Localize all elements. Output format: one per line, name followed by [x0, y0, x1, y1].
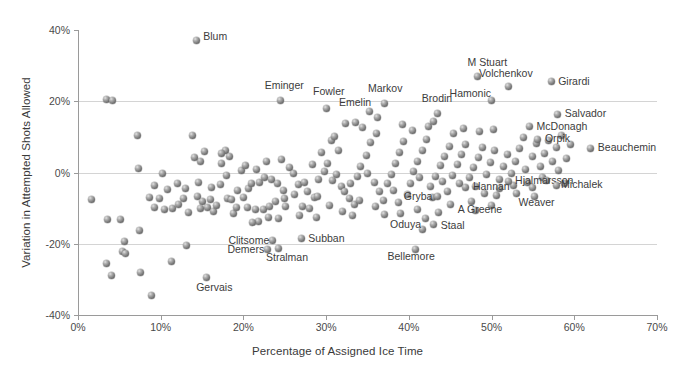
data-point: [210, 208, 217, 215]
data-point: [291, 191, 298, 198]
data-point: [407, 180, 414, 187]
data-point: [447, 201, 454, 208]
data-point-staal: [430, 221, 437, 228]
data-point-girardi: [548, 78, 555, 85]
point-label-staal: Staal: [441, 220, 465, 231]
data-point-gervais: [203, 274, 210, 281]
data-point: [422, 215, 429, 222]
data-point: [335, 147, 342, 154]
y-tick-label-1: 20%: [30, 96, 70, 106]
data-point: [437, 162, 444, 169]
point-label-weaver: Weaver: [519, 197, 555, 208]
x-tick-label-3: 30%: [306, 322, 346, 332]
y-tick-label-2: 0%: [30, 168, 70, 178]
data-point: [218, 160, 225, 167]
data-point: [446, 143, 453, 150]
data-point: [466, 174, 473, 181]
data-point: [223, 172, 230, 179]
data-point: [380, 197, 387, 204]
data-point: [504, 151, 511, 158]
data-point: [458, 151, 465, 158]
y-tick-3: [74, 244, 79, 245]
data-point: [529, 153, 536, 160]
data-point: [339, 208, 346, 215]
x-tick-6: [574, 315, 575, 320]
point-label-markov: Markov: [368, 83, 402, 94]
data-point: [372, 203, 379, 210]
point-label-emelin: Emelin: [339, 97, 371, 108]
data-point-orpik: [534, 136, 541, 143]
data-point: [390, 187, 397, 194]
data-point-eminger: [277, 97, 284, 104]
data-point: [233, 204, 240, 211]
data-point: [146, 194, 153, 201]
point-label-hannan: Hannan: [473, 181, 510, 192]
data-point: [180, 195, 187, 202]
data-point: [397, 210, 404, 217]
data-point-hannan: [462, 184, 469, 191]
data-point: [159, 170, 166, 177]
data-point: [349, 212, 356, 219]
point-label-michalek: Michalek: [561, 179, 602, 190]
data-point: [541, 150, 548, 157]
data-point: [439, 178, 446, 185]
y-tick-1: [74, 101, 79, 102]
data-point: [520, 134, 527, 141]
data-point: [321, 168, 328, 175]
data-point: [462, 141, 469, 148]
data-point: [103, 260, 110, 267]
data-point: [148, 292, 155, 299]
data-point: [326, 202, 333, 209]
data-point: [266, 203, 273, 210]
data-point: [306, 205, 313, 212]
data-point: [175, 201, 182, 208]
data-point: [248, 180, 255, 187]
x-tick-label-0: 0%: [58, 322, 98, 332]
data-point: [373, 130, 380, 137]
data-point: [563, 155, 570, 162]
data-point-volchenkov: [505, 83, 512, 90]
data-point: [410, 168, 417, 175]
data-point: [356, 197, 363, 204]
data-point: [490, 126, 497, 133]
y-tick-label-3: -20%: [30, 239, 70, 249]
data-point: [282, 203, 289, 210]
data-point: [278, 156, 285, 163]
point-label-beauchemin: Beauchemin: [598, 142, 656, 153]
data-point: [201, 148, 208, 155]
data-point-michalek: [553, 182, 560, 189]
data-point: [315, 176, 322, 183]
data-point-beauchemin: [587, 145, 594, 152]
data-point: [487, 159, 494, 166]
point-label-oduya: Oduya: [390, 219, 421, 230]
data-point: [253, 166, 260, 173]
data-point: [122, 250, 129, 257]
data-point: [357, 163, 364, 170]
data-point: [493, 192, 500, 199]
data-point: [309, 161, 316, 168]
data-point: [359, 124, 366, 131]
data-point: [137, 269, 144, 276]
x-tick-2: [243, 315, 244, 320]
data-point: [537, 163, 544, 170]
data-point: [475, 154, 482, 161]
data-point: [161, 206, 168, 213]
data-point: [324, 160, 331, 167]
data-point: [265, 214, 272, 221]
data-point-gryba: [434, 193, 441, 200]
data-point: [174, 180, 181, 187]
data-point: [423, 136, 430, 143]
data-point: [151, 182, 158, 189]
data-point: [395, 199, 402, 206]
data-point: [280, 187, 287, 194]
data-point: [197, 205, 204, 212]
data-point: [396, 149, 403, 156]
data-point: [249, 219, 256, 226]
data-point: [108, 272, 115, 279]
data-point-mcdonagh: [526, 123, 533, 130]
data-point: [416, 174, 423, 181]
data-point: [491, 147, 498, 154]
point-label-hamonic: Hamonic: [450, 88, 491, 99]
data-point-clitsome: [269, 237, 276, 244]
data-point: [444, 188, 451, 195]
